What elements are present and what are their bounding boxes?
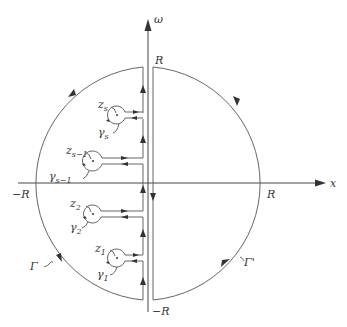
- channel-down-arrow-icon: [150, 193, 156, 201]
- channel-up-arrow-icon: [140, 277, 146, 285]
- x-axis-label: x: [330, 177, 337, 190]
- gamma-s-1-label: γs−1: [49, 170, 71, 185]
- gamma-s-label: γs: [98, 126, 109, 141]
- omega-axis-label: ω: [154, 13, 163, 26]
- arc-arrow-top-left-icon: [68, 89, 76, 97]
- keyhole-zs-1: [82, 151, 143, 171]
- zs-1-label: zs−1: [65, 144, 88, 159]
- omega-axis-arrow-icon: [145, 19, 152, 31]
- keyhole-zs: [106, 106, 143, 124]
- channel-up-arrow-icon: [140, 135, 146, 143]
- zs-label: zs: [97, 98, 108, 113]
- channel-up-arrow-icon: [140, 229, 146, 237]
- y-tick-neg: −R: [152, 305, 170, 318]
- gamma-1-label: γ1: [97, 268, 109, 283]
- gamma-left-label: Γ: [29, 260, 38, 273]
- gamma-2-label: γ2: [70, 221, 82, 236]
- x-tick-neg: −R: [12, 188, 30, 201]
- x-axis-arrow-icon: [315, 180, 326, 187]
- x-tick-pos: R: [266, 188, 275, 201]
- channel-up-arrow-icon: [140, 185, 146, 193]
- z1-label: z1: [94, 242, 106, 257]
- contour-diagram: ω x R −R −R R Γ Γ' zs γs zs−1 γs−1 z2 γ2…: [0, 0, 347, 327]
- gamma-right-label: Γ': [243, 256, 255, 269]
- keyhole-z1: [106, 249, 143, 267]
- axes: [18, 19, 326, 312]
- y-tick-pos: R: [154, 54, 163, 67]
- arc-arrow-bottom-left-icon: [56, 253, 62, 262]
- keyhole-z2: [83, 205, 143, 223]
- arc-arrow-top-right-icon: [233, 96, 240, 106]
- channel-up-arrow-icon: [140, 85, 146, 93]
- z2-label: z2: [69, 197, 81, 212]
